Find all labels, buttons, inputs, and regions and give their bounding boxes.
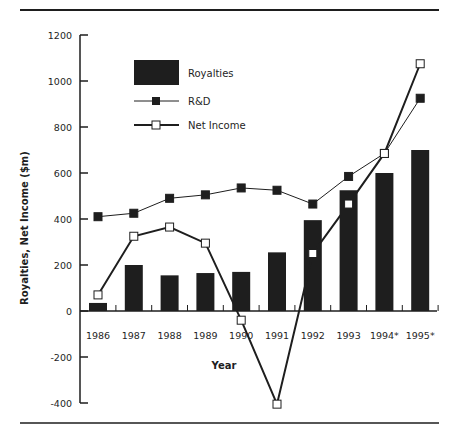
bar — [161, 275, 179, 311]
legend-label: Net Income — [188, 120, 246, 131]
hollow-square-marker-icon — [416, 60, 424, 68]
royalties-bars — [89, 150, 429, 311]
y-axis: 120010008006004002000-200-400 — [48, 30, 88, 409]
hollow-square-marker-icon — [152, 121, 160, 129]
filled-square-marker-icon — [94, 213, 102, 221]
filled-square-marker-icon — [130, 209, 138, 217]
filled-square-marker-icon — [345, 172, 353, 180]
x-tick-label: 1993 — [337, 330, 361, 341]
bar — [304, 220, 322, 311]
y-tick-label: 1200 — [48, 30, 72, 41]
series-lines — [94, 60, 424, 408]
rd-line — [94, 94, 424, 220]
legend-item-royalties: Royalties — [134, 60, 234, 85]
royalties-swatch — [134, 60, 179, 85]
filled-square-marker-icon — [273, 186, 281, 194]
bar — [196, 273, 214, 311]
net-income-line-path — [98, 64, 420, 404]
y-tick-label: 800 — [54, 122, 72, 133]
x-tick-label: 1988 — [158, 330, 182, 341]
y-tick-label: -400 — [50, 398, 72, 409]
filled-square-marker-icon — [309, 200, 317, 208]
y-tick-label: 400 — [54, 214, 72, 225]
legend-label: Royalties — [188, 68, 234, 79]
filled-square-marker-icon — [152, 97, 160, 105]
x-tick-label: 1991 — [265, 330, 289, 341]
bar — [268, 252, 286, 311]
bar — [375, 173, 393, 311]
filled-square-marker-icon — [201, 191, 209, 199]
y-tick-label: 600 — [54, 168, 72, 179]
filled-square-marker-icon — [416, 94, 424, 102]
bar — [125, 265, 143, 311]
hollow-square-marker-icon — [345, 200, 353, 208]
hollow-square-marker-icon — [201, 239, 209, 247]
y-tick-label: 0 — [66, 306, 72, 317]
legend: Royalties R&D Net Income — [134, 60, 246, 131]
chart: 120010008006004002000-200-400 1986198719… — [0, 0, 457, 434]
legend-label: R&D — [188, 96, 211, 107]
filled-square-marker-icon — [166, 194, 174, 202]
y-tick-label: 200 — [54, 260, 72, 271]
x-tick-label: 1995* — [406, 330, 435, 341]
x-tick-label: 1992 — [301, 330, 325, 341]
x-tick-label: 1994* — [370, 330, 399, 341]
legend-item-rd: R&D — [134, 96, 211, 107]
y-tick-label: 1000 — [48, 76, 72, 87]
x-tick-label: 1987 — [122, 330, 146, 341]
hollow-square-marker-icon — [130, 232, 138, 240]
y-axis-label: Royalties, Net Income ($m) — [19, 151, 30, 305]
hollow-square-marker-icon — [237, 316, 245, 324]
legend-item-net-income: Net Income — [134, 120, 246, 131]
net-income-line — [94, 60, 424, 408]
hollow-square-marker-icon — [94, 291, 102, 299]
hollow-square-marker-icon — [273, 400, 281, 408]
hollow-square-marker-icon — [166, 223, 174, 231]
bar — [411, 150, 429, 311]
bar — [89, 303, 107, 311]
rd-line-path — [98, 98, 420, 216]
x-tick-label: 1986 — [86, 330, 110, 341]
hollow-square-marker-icon — [380, 149, 388, 157]
hollow-square-marker-icon — [309, 250, 317, 258]
x-axis-label: Year — [211, 360, 237, 371]
y-tick-label: -200 — [50, 352, 72, 363]
filled-square-marker-icon — [237, 184, 245, 192]
x-tick-label: 1989 — [193, 330, 217, 341]
